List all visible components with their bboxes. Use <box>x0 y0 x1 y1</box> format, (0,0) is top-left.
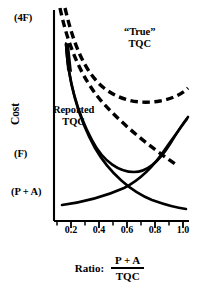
curve-label-4f: (4F) <box>14 12 32 23</box>
curve-p-plus-a <box>62 119 187 205</box>
curve-4f-dashed <box>60 8 178 166</box>
x-tick-label: 1.0 <box>177 224 190 235</box>
ratio-word: Ratio: <box>75 262 104 274</box>
x-axis-caption: Ratio: P + A TQC <box>0 254 219 282</box>
curve-label-true-tqc-line2: TQC <box>124 38 155 50</box>
curve-true-tqc <box>65 8 188 102</box>
x-tick-label: 0.8 <box>149 224 162 235</box>
x-axis-tick-labels: 0.2 0.4 0.6 0.8 1.0 <box>0 224 219 238</box>
y-axis-label: Cost <box>9 87 21 141</box>
x-tick-label: 0.4 <box>93 224 106 235</box>
x-tick-label: 0.2 <box>65 224 78 235</box>
curve-label-true-tqc: “True” TQC <box>124 26 155 50</box>
curve-label-reported-tqc: Reported TQC <box>53 104 94 128</box>
curve-label-true-tqc-line1: “True” <box>124 26 155 38</box>
curve-label-f: (F) <box>14 148 27 159</box>
fraction-numerator: P + A <box>111 254 144 267</box>
curve-label-reported-tqc-line2: TQC <box>53 116 94 128</box>
quality-cost-chart: Cost (4F) (F) (P + A) “True” TQC Reporte… <box>0 0 219 292</box>
chart-plot-area <box>0 0 219 292</box>
ratio-fraction: P + A TQC <box>111 254 144 282</box>
curve-label-reported-tqc-line1: Reported <box>53 104 94 116</box>
x-tick-label: 0.6 <box>121 224 134 235</box>
fraction-denominator: TQC <box>112 269 144 282</box>
curve-label-p-plus-a: (P + A) <box>11 186 41 197</box>
